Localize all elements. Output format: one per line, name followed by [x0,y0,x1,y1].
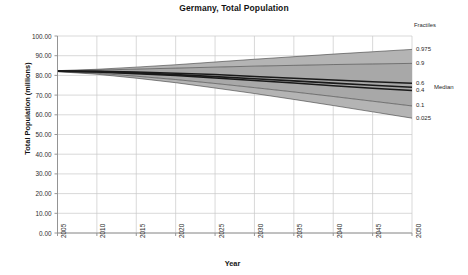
y-tick-label: 100.00 [10,33,52,40]
legend: Fractiles 0.9750.90.60.40.10.025Median [414,22,468,29]
legend-entry-0-4: 0.4 [416,87,424,94]
y-tick-label: 0.00 [10,230,52,237]
legend-entry-0-9: 0.9 [416,60,424,67]
x-tick-label: 2010 [99,224,106,238]
y-tick-label: 20.00 [10,190,52,197]
x-tick-label: 2025 [218,224,225,238]
x-tick-label: 2020 [178,224,185,238]
x-tick-label: 2045 [375,224,382,238]
legend-entry-0-025: 0.025 [416,115,431,122]
chart-container: Germany, Total Population 0.0010.0020.00… [0,0,468,275]
legend-entry-0-6: 0.6 [416,80,424,87]
plot-area [0,0,468,275]
x-tick-label: 2030 [257,224,264,238]
legend-entry-0-1: 0.1 [416,102,424,109]
x-tick-label: 2040 [336,224,343,238]
legend-title: Fractiles [414,22,468,29]
y-axis-label: Total Population (millions) [23,44,32,174]
x-tick-label: 2015 [139,224,146,238]
x-tick-label: 2050 [415,224,422,238]
legend-entry-median: Median [434,84,454,90]
y-tick-label: 10.00 [10,210,52,217]
x-tick-label: 2005 [60,224,67,238]
legend-entry-0-975: 0.975 [416,46,431,53]
x-axis-label: Year [55,259,410,268]
x-tick-label: 2035 [296,224,303,238]
